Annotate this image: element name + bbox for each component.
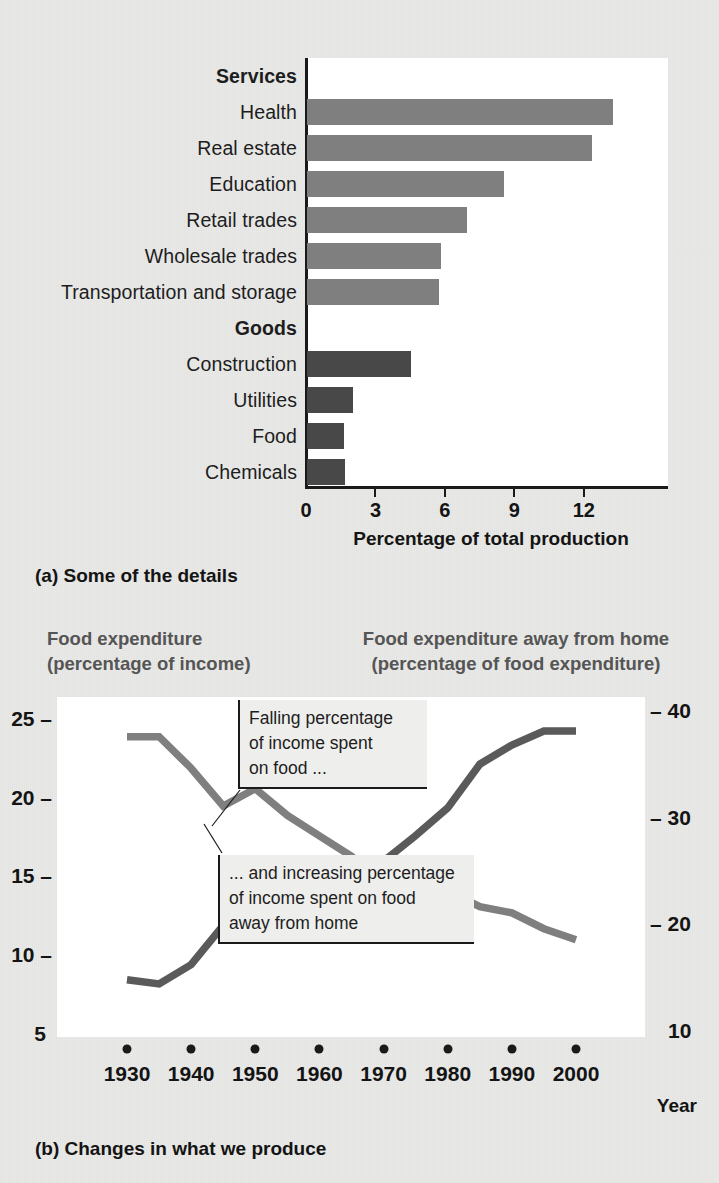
bar-row: Retail trades [0,202,719,238]
bar-chart-tick-label: 12 [573,499,595,522]
bar-row: Utilities [0,382,719,418]
panel-a-caption: (a) Some of the details [35,565,238,587]
annotation-2-leader-line [204,824,222,853]
bar-category-label: Health [240,101,297,124]
left-axis-tick-label: 5 [34,1022,46,1046]
bar-category-label: Chemicals [205,461,297,484]
panel-b-line-chart: Food expenditure (percentage of income) … [0,600,719,1183]
bar-row: Transportation and storage [0,274,719,310]
bar-row: Chemicals [0,454,719,490]
bar-fill [307,423,344,449]
right-axis-tick-label: – 40 [650,699,691,723]
bar-fill [307,351,411,377]
bar-fill [307,171,504,197]
bar-fill [307,459,345,485]
annotation-increasing-percentage: ... and increasing percentage of income … [218,855,474,944]
bar-fill [307,207,467,233]
x-axis-tick-label: 2000 [553,1062,600,1086]
bar-category-label: Retail trades [186,209,297,232]
x-axis-tick-dot [315,1045,324,1054]
bar-row: Construction [0,346,719,382]
bar-group-label: Goods [235,317,297,340]
bar-chart-tick-mark [374,486,376,497]
x-axis-tick-dot [443,1045,452,1054]
bar-group-label: Services [216,65,297,88]
bar-fill [307,99,613,125]
left-axis-tick-label: 25 – [11,707,52,731]
annotation-falling-percentage: Falling percentage of income spent on fo… [238,700,427,789]
bar-row: Education [0,166,719,202]
bar-category-label: Real estate [197,137,297,160]
annotation-1-line-1: Falling percentage [249,706,417,731]
bar-category-label: Wholesale trades [145,245,297,268]
left-axis-tick-label: 15 – [11,864,52,888]
bar-fill [307,135,592,161]
bar-category-label: Utilities [233,389,297,412]
bar-chart-tick-label: 3 [370,499,381,522]
panel-b-caption: (b) Changes in what we produce [35,1138,326,1160]
x-axis-tick-dot [251,1045,260,1054]
annotation-1-line-2: of income spent [249,731,417,756]
left-axis-tick-label: 20 – [11,786,52,810]
bar-fill [307,387,353,413]
x-axis-tick-dot [379,1045,388,1054]
x-axis-tick-label: 1990 [488,1062,535,1086]
bar-fill [307,279,439,305]
x-axis-tick-dot [507,1045,516,1054]
bar-row: Real estate [0,130,719,166]
bar-chart-rows: ServicesHealthReal estateEducationRetail… [0,58,719,490]
annotation-2-line-1: ... and increasing percentage [229,861,464,886]
x-axis-tick-label: 1970 [360,1062,407,1086]
bar-chart-tick-label: 9 [509,499,520,522]
x-axis-tick-label: 1950 [232,1062,279,1086]
x-axis-tick-label: 1960 [296,1062,343,1086]
x-axis-tick-dot [123,1045,132,1054]
right-axis-tick-label: – 30 [650,806,691,830]
bar-chart-x-axis-title: Percentage of total production [306,528,676,550]
annotation-1-line-3: on food ... [249,756,417,781]
annotation-2-line-2: of income spent on food [229,886,464,911]
right-axis-tick-label: 10 [668,1019,691,1043]
bar-category-label: Education [209,173,297,196]
left-axis-tick-label: 10 – [11,943,52,967]
panel-a-bar-chart: ServicesHealthReal estateEducationRetail… [0,0,719,600]
bar-chart-tick-label: 0 [300,499,311,522]
figure-page: ServicesHealthReal estateEducationRetail… [0,0,719,1183]
bar-group-header-row: Goods [0,310,719,346]
x-axis-tick-label: 1930 [104,1062,151,1086]
bar-row: Health [0,94,719,130]
x-axis-tick-dot [187,1045,196,1054]
bar-chart-tick-mark [583,486,585,497]
line-chart-x-axis-title: Year [657,1095,697,1117]
bar-category-label: Food [252,425,297,448]
bar-row: Wholesale trades [0,238,719,274]
x-axis-tick-label: 1940 [168,1062,215,1086]
bar-fill [307,243,441,269]
x-axis-tick-label: 1980 [424,1062,471,1086]
bar-group-header-row: Services [0,58,719,94]
bar-row: Food [0,418,719,454]
right-axis-tick-label: – 20 [650,912,691,936]
x-axis-tick-dot [572,1045,581,1054]
bar-category-label: Transportation and storage [61,281,297,304]
bar-chart-tick-mark [513,486,515,497]
bar-category-label: Construction [186,353,297,376]
bar-chart-tick-label: 6 [439,499,450,522]
bar-chart-tick-mark [444,486,446,497]
annotation-2-line-3: away from home [229,911,464,936]
